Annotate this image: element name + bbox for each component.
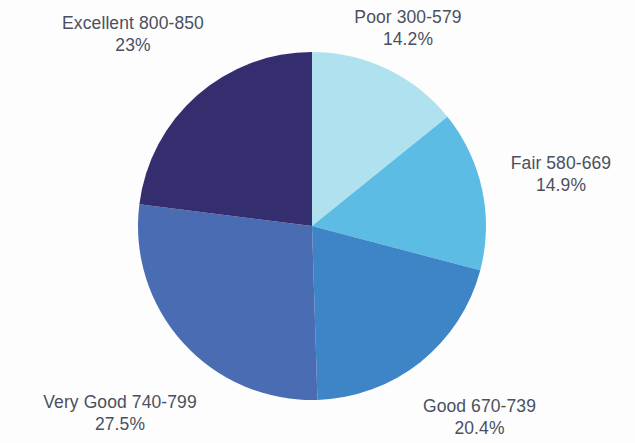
pie-label-poor-percent: 14.2% <box>318 28 498 50</box>
pie-chart-svg <box>0 0 635 443</box>
pie-label-fair-percent: 14.9% <box>492 174 630 196</box>
pie-label-fair: Fair 580-669 14.9% <box>492 152 630 197</box>
pie-slice-group <box>138 52 486 400</box>
pie-label-very-good-percent: 27.5% <box>6 413 234 435</box>
pie-label-fair-name: Fair 580-669 <box>492 152 630 174</box>
pie-label-excellent: Excellent 800-850 23% <box>18 12 248 57</box>
pie-label-poor: Poor 300-579 14.2% <box>318 6 498 51</box>
pie-slice-very <box>138 204 317 400</box>
pie-label-very-good-name: Very Good 740-799 <box>6 391 234 413</box>
pie-label-good: Good 670-739 20.4% <box>392 395 567 440</box>
pie-label-excellent-percent: 23% <box>18 34 248 56</box>
pie-label-good-name: Good 670-739 <box>392 395 567 417</box>
pie-chart-figure: Excellent 800-850 23% Poor 300-579 14.2%… <box>0 0 635 443</box>
pie-label-poor-name: Poor 300-579 <box>318 6 498 28</box>
pie-label-very-good: Very Good 740-799 27.5% <box>6 391 234 436</box>
pie-label-excellent-name: Excellent 800-850 <box>18 12 248 34</box>
pie-label-good-percent: 20.4% <box>392 417 567 439</box>
pie-slice-excellent <box>139 52 312 226</box>
